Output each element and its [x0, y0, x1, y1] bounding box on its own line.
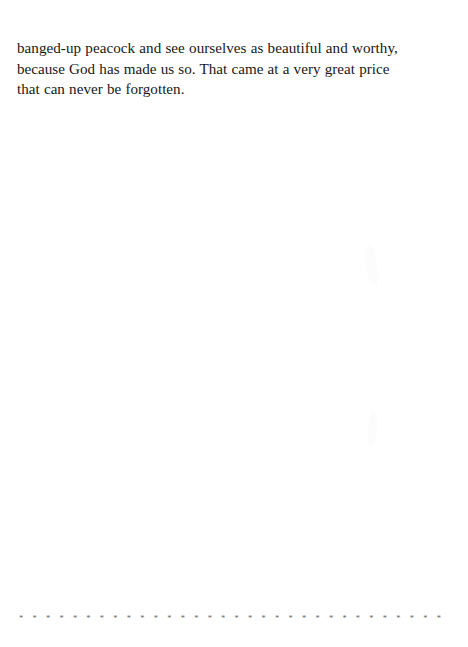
scan-smudge-artifact: [363, 245, 379, 286]
asterisk-divider: * * * * * * * * * * * * * * * * * * * * …: [19, 612, 449, 624]
body-paragraph: banged-up peacock and see ourselves as b…: [17, 38, 453, 100]
paragraph-line: that can never be forgotten.: [17, 79, 453, 100]
scan-smudge-artifact: [367, 410, 379, 449]
paragraph-line: banged-up peacock and see ourselves as b…: [17, 38, 453, 59]
paragraph-line: because God has made us so. That came at…: [17, 59, 453, 80]
scanned-book-page: banged-up peacock and see ourselves as b…: [0, 0, 468, 647]
